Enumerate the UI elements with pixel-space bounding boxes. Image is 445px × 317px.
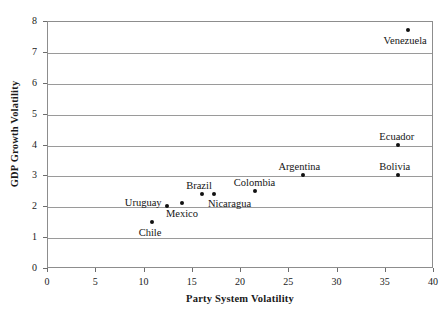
y-tick-label-8: 8	[9, 16, 37, 26]
data-point-label-chile: Chile	[139, 227, 162, 238]
y-tick-label-1: 1	[9, 232, 37, 242]
x-tick-label-15: 15	[177, 277, 207, 287]
y-tick-label-4: 4	[9, 140, 37, 150]
y-tick-label-2: 2	[9, 201, 37, 211]
data-point-argentina	[301, 173, 305, 177]
data-point-venezuela	[406, 28, 410, 32]
y-tick-mark-7	[43, 52, 47, 53]
data-point-brazil	[200, 192, 204, 196]
y-tick-label-0: 0	[9, 263, 37, 273]
x-tick-label-10: 10	[129, 277, 159, 287]
y-tick-label-6: 6	[9, 78, 37, 88]
x-tick-label-30: 30	[322, 277, 352, 287]
y-tick-mark-2	[43, 206, 47, 207]
y-tick-mark-5	[43, 114, 47, 115]
data-point-chile	[150, 220, 154, 224]
y-tick-mark-1	[43, 237, 47, 238]
y-tick-label-5: 5	[9, 109, 37, 119]
data-point-label-bolivia: Bolivia	[379, 161, 410, 172]
gridline-y-6	[48, 84, 432, 85]
y-tick-mark-8	[43, 21, 47, 22]
data-point-label-venezuela: Venezuela	[384, 35, 427, 46]
x-tick-label-25: 25	[273, 277, 303, 287]
data-point-ecuador	[396, 143, 400, 147]
data-point-label-uruguay: Uruguay	[125, 197, 162, 208]
y-tick-mark-6	[43, 83, 47, 84]
data-point-label-brazil: Brazil	[186, 180, 212, 191]
y-tick-mark-3	[43, 175, 47, 176]
x-tick-mark-15	[192, 268, 193, 272]
x-tick-mark-5	[95, 268, 96, 272]
gridline-y-7	[48, 53, 432, 54]
gridline-y-1	[48, 238, 432, 239]
x-tick-label-20: 20	[225, 277, 255, 287]
x-tick-mark-20	[240, 268, 241, 272]
x-tick-mark-35	[385, 268, 386, 272]
data-point-label-ecuador: Ecuador	[379, 131, 414, 142]
scatter-chart-figure: GDP Growth Volatility 012345678051015202…	[0, 0, 445, 317]
x-tick-mark-10	[144, 268, 145, 272]
x-tick-mark-40	[433, 268, 434, 272]
y-tick-label-7: 7	[9, 47, 37, 57]
data-point-label-mexico: Mexico	[166, 208, 198, 219]
x-tick-label-35: 35	[370, 277, 400, 287]
y-axis-title: GDP Growth Volatility	[6, 0, 24, 268]
gridline-y-5	[48, 115, 432, 116]
x-tick-label-0: 0	[32, 277, 62, 287]
x-axis-title: Party System Volatility	[47, 293, 433, 304]
x-tick-mark-25	[288, 268, 289, 272]
data-point-colombia	[253, 189, 257, 193]
data-point-label-colombia: Colombia	[234, 177, 275, 188]
data-point-nicaragua	[212, 192, 216, 196]
gridline-y-4	[48, 146, 432, 147]
y-tick-mark-4	[43, 145, 47, 146]
y-tick-label-3: 3	[9, 170, 37, 180]
plot-area	[47, 21, 433, 268]
data-point-mexico	[180, 201, 184, 205]
data-point-bolivia	[396, 173, 400, 177]
data-point-label-nicaragua: Nicaragua	[208, 198, 251, 209]
x-tick-mark-0	[47, 268, 48, 272]
x-tick-mark-30	[337, 268, 338, 272]
data-point-label-argentina: Argentina	[278, 161, 320, 172]
x-tick-label-5: 5	[80, 277, 110, 287]
x-tick-label-40: 40	[418, 277, 445, 287]
